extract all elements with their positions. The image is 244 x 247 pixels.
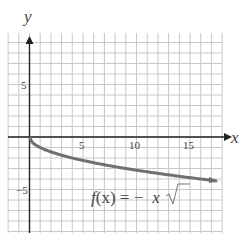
sqrt-function-graph: x y 5 10 15 5 −5 f(x) = −x [0,0,244,247]
x-tick-10: 10 [129,139,141,151]
function-label: f(x) = −x [91,188,160,207]
y-tick-5: 5 [21,79,27,91]
x-axis-label: x [230,128,239,147]
x-tick-5: 5 [79,139,85,151]
y-tick-neg5: −5 [16,184,28,196]
sqrt-radical-sign [166,184,190,204]
x-tick-15: 15 [183,139,195,151]
y-axis-label: y [22,7,32,26]
